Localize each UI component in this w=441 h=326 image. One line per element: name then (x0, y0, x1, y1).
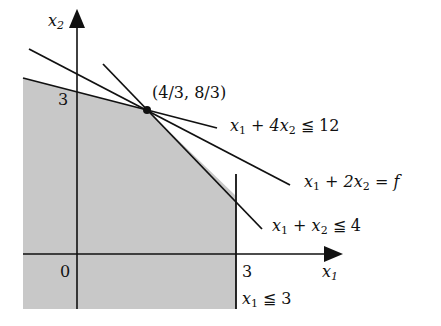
y-axis-label: x2 (48, 13, 64, 31)
objective-label: x1 + 2x2 = f (304, 174, 399, 192)
feasible-region (23, 78, 236, 309)
constraint-label-c3: x1 ≦ 3 (242, 291, 291, 309)
y-tick-label: 3 (58, 92, 68, 108)
optimal-point-label: (4/3, 8/3) (152, 85, 226, 101)
constraint-label-c1: x1 + 4x2 ≦ 12 (230, 118, 339, 136)
optimal-point (143, 106, 151, 114)
x-axis-label: x1 (322, 264, 338, 282)
constraint-label-c2: x1 + x2 ≦ 4 (272, 218, 361, 236)
x-tick-label: 3 (242, 264, 252, 280)
origin-label: 0 (60, 264, 70, 280)
